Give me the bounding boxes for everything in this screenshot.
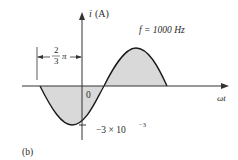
- frequency-label: f = 1000 Hz: [139, 25, 185, 35]
- phase-arrow-right-icon: [76, 55, 82, 59]
- origin-label: 0: [86, 90, 91, 100]
- sine-wave-diagram: 2 3 π i (A) f = 1000 Hz 0 ωt −3 × 10 −3 …: [0, 0, 238, 160]
- phase-numerator: 2: [54, 45, 59, 55]
- y-axis-var: i: [89, 8, 92, 19]
- y-axis-unit: (A): [95, 8, 109, 20]
- phase-denominator: 3: [54, 56, 59, 66]
- phase-pi: π: [62, 51, 67, 61]
- figure-label: (b): [22, 147, 33, 158]
- min-value-exponent: −3: [139, 121, 146, 128]
- y-axis-arrow-icon: [79, 12, 85, 20]
- min-value-label: −3 × 10: [96, 125, 126, 135]
- x-axis-arrow-icon: [221, 83, 229, 89]
- phase-arrow-left-icon: [37, 55, 43, 59]
- x-axis-label: ωt: [217, 93, 226, 103]
